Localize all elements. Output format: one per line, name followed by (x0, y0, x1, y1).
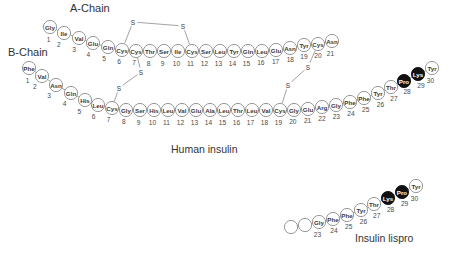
residue-b-29: Lys (411, 67, 424, 80)
residue-code: Cys (106, 105, 118, 112)
residue-a-17: Glu (269, 43, 282, 56)
residue-b-18: Val (259, 103, 272, 116)
residue-a-4: Glu (86, 36, 99, 49)
residue-code: Cys (116, 47, 128, 54)
residue-code: Tyr (356, 207, 366, 214)
residue-number: 11 (187, 60, 194, 67)
residue-a-6: Cys (115, 43, 128, 56)
sulfur-atom-label: S (139, 69, 144, 76)
residue-a-2: Ile (57, 26, 70, 39)
residue-code: Cys (130, 48, 142, 55)
residue-code: Phe (358, 95, 370, 102)
residue-lispro-28: Lys (381, 191, 394, 204)
residue-number: 20 (289, 118, 297, 125)
disulfide-segment (125, 26, 132, 43)
residue-a-15: Gln (241, 44, 254, 57)
residue-code: Asn (50, 82, 62, 89)
residue-lispro-23: Gly (312, 215, 325, 228)
residue-code: Val (38, 73, 47, 80)
residue-code: Phe (344, 99, 356, 106)
residue-a-1: Gly (43, 20, 56, 33)
residue-code: Lys (383, 195, 394, 202)
residue-b-19: Cys (273, 103, 286, 116)
residue-code: Thr (233, 107, 244, 114)
residue-code: Leu (246, 107, 257, 114)
residue-number: 9 (137, 119, 141, 126)
residue-b-11: Leu (161, 103, 174, 116)
residue-number: 7 (107, 116, 111, 123)
residue-number: 5 (102, 55, 106, 62)
residue-code: Glu (191, 107, 202, 114)
residue-number: 6 (92, 113, 96, 120)
residue-code: Gly (314, 219, 325, 226)
residue-number: 16 (257, 59, 265, 66)
residue-code: Ser (201, 48, 212, 55)
residue-code: Cys (274, 107, 286, 114)
residue-b-5: His (78, 93, 91, 106)
residue-code: Lys (413, 71, 424, 78)
residue-number: 30 (427, 77, 435, 84)
residue-number: 3 (72, 46, 76, 53)
disulfide-segment (282, 89, 286, 103)
residue-code: Leu (218, 107, 229, 114)
residue-a-7: Cys (129, 44, 142, 57)
residue-number: 9 (161, 60, 165, 67)
residue-a-19: Tyr (297, 38, 310, 51)
residue-code: Arg (317, 104, 328, 111)
residue-b-1: Phe (22, 61, 35, 74)
residue-number: 19 (300, 53, 308, 60)
sulfur-atom-label: S (117, 85, 122, 92)
residue-b-27: Thr (384, 80, 397, 93)
residue-b-25: Phe (357, 91, 370, 104)
residue-number: 1 (47, 36, 51, 43)
residue-code: Ser (135, 107, 146, 114)
residue-code: Gly (45, 24, 56, 31)
residue-a-21: Asn (325, 34, 338, 47)
residue-b-8: Gly (119, 103, 132, 116)
residue-number: 30 (411, 195, 419, 202)
residue-code: Tyr (427, 65, 437, 72)
residue-number: 8 (147, 60, 151, 67)
residue-number: 12 (201, 60, 209, 67)
residue-number: 17 (272, 58, 280, 65)
residue-lispro-26: Tyr (354, 203, 367, 216)
residue-a-12: Ser (199, 44, 212, 57)
insulin-diagram-svg: SSSSSS GlyIleValGluGlnCysCysThrSerIleCys… (0, 0, 452, 257)
residue-b-16: Thr (231, 103, 244, 116)
residue-code: Gln (66, 90, 77, 97)
residue-code: Gln (103, 44, 114, 51)
residue-lispro-30: Tyr (409, 179, 422, 192)
residue-number: 1 (26, 77, 30, 84)
residue-a-14: Tyr (227, 44, 240, 57)
residue-code: Phe (341, 212, 353, 219)
residue-lispro-24: Phe (326, 212, 339, 225)
residue-b-26: Tyr (371, 86, 384, 99)
residue-number: 27 (390, 95, 398, 102)
residue-number: 24 (330, 227, 338, 234)
residue-number: 8 (122, 118, 126, 125)
disulfide-segment (185, 30, 190, 44)
sulfur-atom-label: S (181, 23, 186, 30)
residue-number: 22 (318, 115, 326, 122)
residue-number: 15 (219, 119, 227, 126)
residue-number: 24 (347, 110, 355, 117)
residue-b-9: Ser (133, 103, 146, 116)
sulfur-atom-label: S (131, 19, 136, 26)
residue-code: Leu (92, 102, 103, 109)
residue-number: 23 (314, 231, 322, 238)
residue-a-10: Ile (171, 44, 184, 57)
residue-number: 16 (233, 119, 241, 126)
residue-number: 15 (243, 60, 251, 67)
residue-number: 23 (333, 113, 341, 120)
residue-b-15: Leu (217, 103, 230, 116)
residue-a-3: Val (72, 31, 85, 44)
residue-code: Thr (369, 201, 380, 208)
residue-code: Glu (303, 106, 314, 113)
residue-b-6: Leu (91, 98, 104, 111)
residue-number: 13 (191, 119, 199, 126)
residue-number: 14 (229, 60, 237, 67)
residue-number: 29 (401, 200, 409, 207)
residue-number: 26 (360, 218, 368, 225)
residue-code: Val (178, 107, 187, 114)
residue-b-23: Gly (329, 98, 342, 111)
